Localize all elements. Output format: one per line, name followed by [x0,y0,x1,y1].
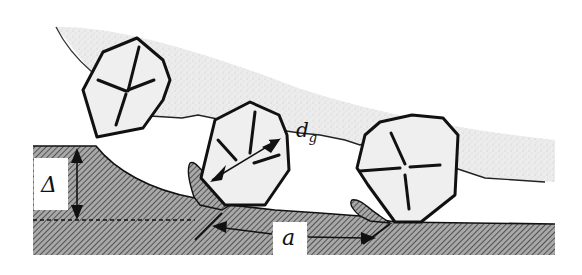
grain-spacing-label: a [282,225,295,250]
depth-of-cut-label: Δ [40,172,57,197]
grain-3 [357,115,458,222]
grinding-diagram: Δ a dg [0,0,582,275]
